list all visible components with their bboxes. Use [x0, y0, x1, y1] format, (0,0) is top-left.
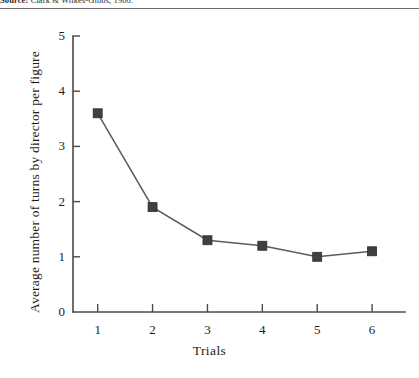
x-axis-title: Trials: [0, 343, 419, 359]
data-series-markers: 1: 3.62: 1.93: 1.34: 1.25: 16: 1.1: [93, 109, 376, 262]
data-point-marker: 4: 1.2: [258, 241, 267, 250]
data-point-marker: 1: 3.6: [93, 109, 102, 118]
source-credit: Source: Clark & Wilkes-Gibbs, 1986.: [0, 0, 419, 6]
chart-axes: [73, 36, 405, 312]
data-series-line: [98, 113, 372, 257]
data-point-marker: 5: 1: [313, 252, 322, 261]
source-label: Source:: [0, 0, 28, 5]
y-axis-title: Average number of turns by director per …: [27, 37, 43, 327]
x-axis-tick-label: 1: [78, 323, 118, 336]
data-point-marker: 3: 1.3: [203, 236, 212, 245]
x-axis-tick-label: 3: [187, 323, 227, 336]
x-axis-tick-label: 2: [133, 323, 173, 336]
data-point-marker: 6: 1.1: [368, 247, 377, 256]
x-axis-tick-label: 4: [242, 323, 282, 336]
data-point-marker: 2: 1.9: [148, 203, 157, 212]
line-chart-figure: 1: 3.62: 1.93: 1.34: 1.25: 16: 1.1 01234…: [0, 9, 419, 378]
x-axis-tick-label: 5: [297, 323, 337, 336]
y-axis-ticks: [73, 36, 80, 257]
x-axis-ticks: [98, 304, 372, 312]
source-citation: Clark & Wilkes-Gibbs, 1986.: [31, 0, 134, 5]
x-axis-tick-label: 6: [352, 323, 392, 336]
